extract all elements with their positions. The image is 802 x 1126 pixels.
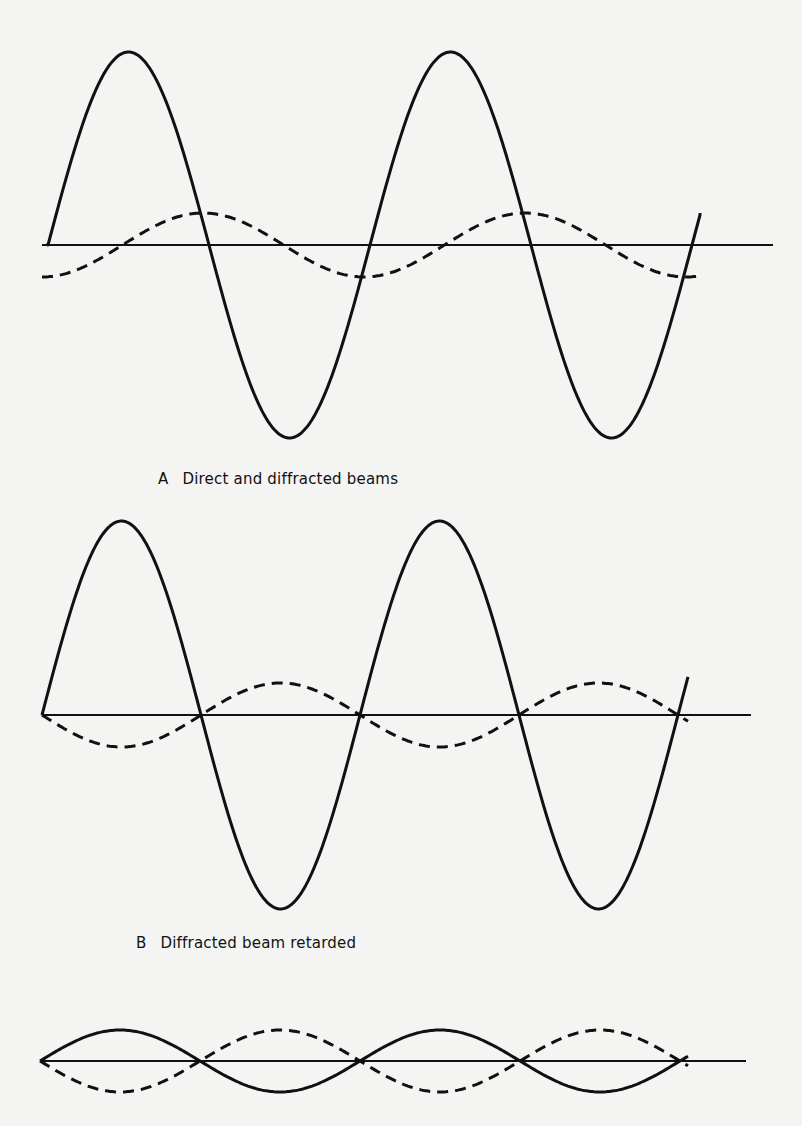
panel-b-caption-text: Diffracted beam retarded xyxy=(161,934,357,952)
panel-a-letter: A xyxy=(158,470,168,488)
wave-diagram xyxy=(0,0,802,1126)
panel-a-caption-text: Direct and diffracted beams xyxy=(182,470,398,488)
panel-a-direct-diffracted xyxy=(42,52,773,438)
panel-a-caption: ADirect and diffracted beams xyxy=(158,470,398,488)
panel-b-diffracted-retarded xyxy=(42,521,751,909)
panel-c-equal-amplitude xyxy=(40,1030,746,1092)
panel-b-caption: BDiffracted beam retarded xyxy=(136,934,356,952)
panel-b-letter: B xyxy=(136,934,147,952)
